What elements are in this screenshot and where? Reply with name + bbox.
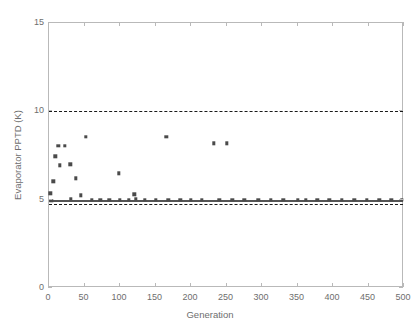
x-tick-label: 500 — [395, 292, 410, 302]
data-point — [390, 198, 393, 201]
data-point — [269, 198, 272, 201]
data-point — [167, 198, 170, 201]
data-point — [84, 135, 87, 138]
data-point — [340, 198, 343, 201]
x-tick — [190, 283, 191, 287]
x-tick — [190, 22, 191, 26]
data-point — [118, 198, 121, 201]
data-point — [296, 198, 299, 201]
x-tick — [155, 22, 156, 26]
x-tick-label: 50 — [78, 292, 88, 302]
y-tick — [48, 199, 52, 200]
y-tick — [399, 199, 403, 200]
x-tick — [84, 22, 85, 26]
x-tick — [403, 283, 404, 287]
data-point — [98, 198, 101, 201]
data-point — [63, 144, 66, 147]
data-point — [257, 198, 260, 201]
x-tick — [119, 22, 120, 26]
data-point — [90, 198, 93, 201]
data-point — [377, 198, 380, 201]
evaporator-pptd-scatter-chart: Generation Evaporator PPTD (K) 050100150… — [0, 0, 420, 333]
x-tick — [368, 22, 369, 26]
x-tick-label: 150 — [147, 292, 162, 302]
y-tick-label: 15 — [24, 17, 44, 27]
x-tick — [226, 22, 227, 26]
data-point — [127, 198, 130, 201]
data-point — [225, 141, 228, 144]
y-tick — [48, 110, 52, 111]
x-tick — [119, 283, 120, 287]
data-point — [134, 197, 137, 200]
x-tick-label: 450 — [360, 292, 375, 302]
data-point — [69, 163, 72, 166]
x-tick — [261, 22, 262, 26]
y-axis-title: Evaporator PPTD (K) — [12, 110, 23, 200]
data-point — [54, 155, 57, 158]
data-point — [200, 198, 203, 201]
data-point — [143, 198, 146, 201]
y-tick — [399, 287, 403, 288]
x-tick-label: 400 — [324, 292, 339, 302]
x-tick-label: 350 — [289, 292, 304, 302]
data-point — [243, 198, 246, 201]
y-tick-label: 10 — [24, 105, 44, 115]
reference-line-converged-optimum — [49, 200, 403, 202]
data-point — [304, 198, 307, 201]
data-point — [282, 198, 285, 201]
x-tick — [226, 283, 227, 287]
y-tick — [48, 287, 52, 288]
data-point — [79, 194, 82, 197]
x-tick — [368, 283, 369, 287]
y-tick-label: 5 — [24, 194, 44, 204]
data-point — [108, 198, 111, 201]
x-tick — [403, 22, 404, 26]
y-tick — [48, 22, 52, 23]
data-point — [74, 177, 77, 180]
data-point — [365, 198, 368, 201]
data-point — [58, 164, 61, 167]
data-point — [69, 197, 72, 200]
x-tick — [261, 283, 262, 287]
data-point — [57, 144, 60, 147]
data-point — [132, 193, 135, 196]
y-tick — [399, 110, 403, 111]
x-tick-label: 0 — [45, 292, 50, 302]
data-point — [49, 192, 52, 195]
y-tick-label: 0 — [24, 282, 44, 292]
x-tick — [155, 283, 156, 287]
x-tick — [297, 283, 298, 287]
data-point — [154, 198, 157, 201]
x-tick — [297, 22, 298, 26]
data-point — [189, 198, 192, 201]
x-tick-label: 200 — [182, 292, 197, 302]
data-point — [52, 179, 55, 182]
data-point — [218, 198, 221, 201]
plot-area — [48, 22, 403, 287]
data-point — [328, 198, 331, 201]
data-point — [117, 171, 120, 174]
data-point — [230, 198, 233, 201]
x-tick-label: 100 — [111, 292, 126, 302]
reference-line-lower-constraint — [49, 204, 403, 205]
x-tick — [332, 283, 333, 287]
data-point — [179, 198, 182, 201]
y-tick — [399, 22, 403, 23]
data-point — [316, 198, 319, 201]
reference-line-upper-constraint — [49, 111, 403, 112]
x-axis-title: Generation — [0, 309, 420, 320]
data-point — [212, 141, 215, 144]
data-point — [353, 198, 356, 201]
x-tick-label: 300 — [253, 292, 268, 302]
x-tick — [332, 22, 333, 26]
x-tick — [84, 283, 85, 287]
x-tick-label: 250 — [218, 292, 233, 302]
data-point — [164, 135, 167, 138]
